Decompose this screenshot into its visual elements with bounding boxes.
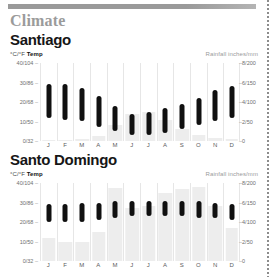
rain-axis-ticks: 8/2006/1504/1002/500 bbox=[238, 63, 272, 141]
climate-panel: Climate Santiago °C/°F Temp Rainfall inc… bbox=[0, 0, 272, 277]
left-axis-units: °C/°F bbox=[10, 51, 25, 57]
temp-tick-label: 20/68 bbox=[20, 99, 38, 105]
temperature-range-bar bbox=[229, 204, 234, 220]
temperature-range-bar bbox=[96, 96, 101, 127]
month-label: D bbox=[223, 262, 240, 268]
month-label: F bbox=[57, 262, 74, 268]
month-label: J bbox=[40, 262, 57, 268]
temp-axis-ticks: 40/10430/8620/6810/500/32 bbox=[0, 183, 40, 261]
month-column bbox=[173, 183, 190, 261]
rainfall-bar bbox=[225, 139, 238, 141]
month-label: N bbox=[207, 142, 224, 148]
rainfall-bar bbox=[209, 138, 222, 141]
rainfall-bar bbox=[59, 140, 72, 141]
temperature-range-bar bbox=[80, 88, 85, 121]
temperature-range-bar bbox=[180, 201, 185, 217]
right-axis-caption: Rainfall inches/mm bbox=[206, 51, 258, 57]
section-kicker: Climate bbox=[10, 12, 66, 30]
month-column bbox=[73, 183, 90, 261]
month-label: S bbox=[173, 142, 190, 148]
temperature-range-bar bbox=[113, 201, 118, 219]
month-label: O bbox=[190, 262, 207, 268]
month-column bbox=[157, 183, 174, 261]
temperature-range-bar bbox=[146, 112, 151, 135]
temperature-range-bar bbox=[213, 90, 218, 121]
month-label: M bbox=[107, 142, 124, 148]
city-title: Santo Domingo bbox=[10, 152, 272, 168]
left-axis-caption: °C/°F Temp bbox=[10, 171, 43, 177]
temp-tick-label: 10/50 bbox=[20, 119, 38, 125]
temperature-range-bar bbox=[196, 98, 201, 125]
month-label: A bbox=[157, 262, 174, 268]
right-axis-caption: Rainfall inches/mm bbox=[206, 171, 258, 177]
axis-captions: °C/°F Temp Rainfall inches/mm bbox=[0, 51, 272, 62]
month-column bbox=[90, 183, 107, 261]
rain-tick-label: 8/200 bbox=[239, 60, 256, 66]
chart-block-santo-domingo: Santo Domingo °C/°F Temp Rainfall inches… bbox=[0, 152, 272, 274]
month-label: J bbox=[40, 142, 57, 148]
month-label: O bbox=[190, 142, 207, 148]
temperature-range-bar bbox=[96, 203, 101, 221]
month-column bbox=[107, 183, 124, 261]
temperature-range-bar bbox=[46, 204, 51, 222]
left-axis-label: Temp bbox=[27, 171, 43, 177]
temperature-range-bar bbox=[63, 204, 68, 222]
rainfall-bar bbox=[192, 187, 205, 261]
rainfall-bar bbox=[175, 129, 188, 141]
month-label: M bbox=[107, 262, 124, 268]
temperature-range-bar bbox=[113, 106, 118, 131]
temperature-range-bar bbox=[180, 104, 185, 129]
month-label: A bbox=[157, 142, 174, 148]
rainfall-bar bbox=[225, 228, 238, 261]
temperature-range-bar bbox=[130, 114, 135, 135]
rainfall-bar bbox=[42, 140, 55, 141]
month-column bbox=[157, 63, 174, 141]
month-column bbox=[73, 63, 90, 141]
temperature-range-bar bbox=[46, 84, 51, 117]
temperature-range-bar bbox=[163, 108, 168, 133]
month-label: J bbox=[140, 142, 157, 148]
chart-block-santiago: Santiago °C/°F Temp Rainfall inches/mm 4… bbox=[0, 32, 272, 154]
month-column bbox=[57, 63, 74, 141]
rain-tick-label: 2/50 bbox=[239, 239, 253, 245]
temperature-range-bar bbox=[229, 86, 234, 117]
rain-tick-label: 6/150 bbox=[239, 80, 256, 86]
month-column bbox=[140, 183, 157, 261]
temperature-range-bar bbox=[213, 203, 218, 219]
plot-grid bbox=[40, 63, 240, 141]
month-column bbox=[140, 63, 157, 141]
month-column bbox=[190, 183, 207, 261]
month-column bbox=[40, 183, 57, 261]
month-label: J bbox=[140, 262, 157, 268]
rainfall-bar bbox=[125, 208, 138, 261]
rainfall-bar bbox=[59, 242, 72, 262]
month-label: D bbox=[223, 142, 240, 148]
month-label: S bbox=[173, 262, 190, 268]
temp-tick-label: 40/104 bbox=[17, 60, 38, 66]
month-column bbox=[123, 63, 140, 141]
month-column bbox=[90, 63, 107, 141]
rainfall-bar bbox=[75, 139, 88, 141]
left-axis-units: °C/°F bbox=[10, 171, 25, 177]
top-rule bbox=[8, 4, 256, 9]
rain-axis-ticks: 8/2006/1504/1002/500 bbox=[238, 183, 272, 261]
month-column bbox=[190, 63, 207, 141]
temperature-range-bar bbox=[163, 201, 168, 217]
month-axis: JFMAMJJASOND bbox=[0, 262, 272, 274]
plot-area: 40/10430/8620/6810/500/32 8/2006/1504/10… bbox=[0, 63, 272, 141]
temperature-range-bar bbox=[80, 203, 85, 223]
month-label: N bbox=[207, 262, 224, 268]
city-title: Santiago bbox=[10, 32, 272, 48]
month-column bbox=[173, 63, 190, 141]
month-label: F bbox=[57, 142, 74, 148]
month-label: A bbox=[90, 142, 107, 148]
rain-tick-label: 4/100 bbox=[239, 99, 256, 105]
month-label: A bbox=[90, 262, 107, 268]
temperature-range-bar bbox=[130, 201, 135, 217]
axis-captions: °C/°F Temp Rainfall inches/mm bbox=[0, 171, 272, 182]
temperature-range-bar bbox=[63, 84, 68, 119]
temp-tick-label: 30/86 bbox=[20, 80, 38, 86]
month-column bbox=[40, 63, 57, 141]
temp-tick-label: 40/104 bbox=[17, 180, 38, 186]
rain-tick-label: 6/150 bbox=[239, 200, 256, 206]
